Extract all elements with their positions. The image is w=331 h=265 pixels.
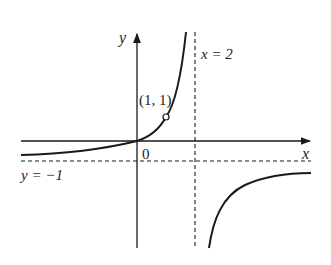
open-point [163,114,169,120]
curve-right-branch [209,173,311,248]
vertical-asymptote-label: x = 2 [201,47,233,62]
horizontal-asymptote-label: y = −1 [21,168,63,183]
y-axis-label: y [119,30,126,46]
point-label: (1, 1) [139,93,172,108]
origin-label: 0 [142,147,150,162]
function-graph [0,0,331,265]
x-axis-label: x [302,146,309,162]
